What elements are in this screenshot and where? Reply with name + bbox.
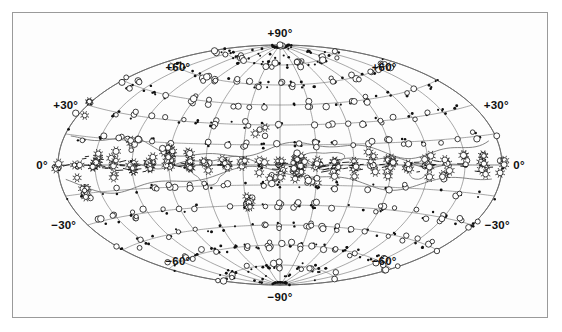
marker-filled-dot: [210, 247, 213, 250]
marker-open-circle: [204, 74, 211, 81]
marker-filled-dot: [279, 281, 282, 284]
marker-filled-dot: [300, 81, 303, 84]
axis-label-dec-plus-30-right: +30°: [484, 99, 509, 111]
marker-filled-dot: [227, 77, 230, 80]
marker-filled-dot: [232, 51, 235, 54]
marker-filled-dot: [257, 247, 259, 249]
marker-filled-dot: [323, 243, 326, 246]
marker-filled-dot: [357, 248, 360, 251]
marker-open-circle: [247, 105, 252, 110]
marker-starburst-circle: [73, 173, 82, 182]
marker-filled-dot: [389, 94, 392, 97]
marker-open-circle: [202, 181, 207, 186]
marker-filled-dot: [404, 138, 407, 141]
marker-open-circle: [279, 240, 285, 246]
marker-dash: [379, 164, 385, 165]
marker-filled-dot: [151, 92, 153, 94]
marker-filled-dot: [259, 55, 261, 57]
marker-open-circle: [136, 79, 142, 85]
marker-open-circle: [425, 110, 430, 115]
marker-open-circle: [225, 142, 231, 148]
marker-open-circle: [440, 174, 446, 180]
marker-filled-dot: [230, 52, 232, 54]
axis-label-dec-minus-60-left: −60°: [165, 255, 190, 267]
marker-filled-dot: [367, 259, 369, 261]
marker-filled-dot: [286, 66, 289, 69]
marker-filled-dot: [265, 275, 267, 277]
marker-open-circle: [279, 81, 284, 86]
marker-filled-dot: [261, 278, 264, 281]
marker-filled-dot: [257, 53, 259, 55]
marker-open-circle: [220, 278, 227, 285]
marker-open-circle: [154, 186, 159, 191]
marker-open-circle: [245, 244, 250, 249]
marker-filled-dot: [306, 51, 308, 53]
marker-filled-dot: [259, 281, 262, 284]
marker-filled-dot: [261, 47, 264, 50]
marker-filled-dot: [493, 198, 496, 201]
marker-filled-dot: [219, 244, 222, 247]
marker-open-circle: [114, 113, 118, 117]
marker-open-circle: [414, 207, 419, 212]
marker-open-circle: [401, 142, 406, 147]
marker-open-circle: [211, 48, 217, 54]
marker-open-circle: [116, 135, 122, 141]
marker-filled-dot: [314, 63, 316, 65]
marker-open-circle: [114, 185, 120, 191]
marker-open-circle: [192, 206, 198, 212]
marker-dash: [321, 171, 329, 172]
marker-open-circle: [439, 216, 445, 222]
marker-open-circle: [242, 119, 248, 125]
marker-filled-dot: [286, 44, 289, 47]
marker-open-circle: [363, 94, 368, 99]
marker-open-circle: [356, 77, 361, 82]
marker-open-circle: [277, 226, 282, 231]
marker-filled-dot: [293, 141, 295, 143]
marker-open-circle: [246, 78, 252, 84]
marker-filled-dot: [441, 110, 443, 112]
marker-open-circle: [263, 223, 268, 228]
marker-open-circle: [439, 140, 444, 145]
marker-open-circle: [82, 188, 86, 192]
marker-filled-dot: [102, 193, 104, 195]
marker-open-circle: [475, 219, 480, 224]
marker-open-circle: [291, 166, 297, 172]
marker-filled-dot: [145, 242, 148, 245]
marker-open-circle: [127, 86, 133, 92]
marker-open-circle: [263, 204, 268, 209]
marker-filled-dot: [131, 84, 133, 86]
marker-filled-dot: [283, 54, 285, 56]
marker-open-circle: [277, 266, 282, 271]
marker-filled-dot: [472, 225, 475, 228]
marker-open-circle: [345, 121, 351, 127]
marker-filled-dot: [382, 58, 384, 60]
marker-open-circle: [415, 236, 420, 241]
marker-filled-dot: [184, 211, 186, 213]
marker-open-circle: [159, 145, 165, 151]
marker-filled-dot: [317, 61, 319, 63]
marker-filled-dot: [290, 44, 293, 47]
axis-label-dec-zero-left: 0°: [36, 159, 48, 171]
marker-filled-dot: [325, 267, 328, 270]
marker-filled-dot: [260, 143, 262, 145]
marker-open-circle: [129, 148, 134, 153]
marker-filled-dot: [341, 76, 344, 79]
marker-open-circle: [241, 58, 247, 64]
marker-filled-dot: [292, 221, 294, 223]
marker-open-circle: [333, 247, 338, 252]
marker-open-circle: [430, 239, 434, 243]
marker-open-circle: [243, 144, 248, 149]
marker-open-circle: [392, 206, 396, 210]
marker-open-circle: [101, 133, 107, 139]
marker-filled-dot: [317, 267, 320, 270]
marker-dash: [99, 166, 105, 167]
marker-open-circle: [274, 140, 280, 146]
marker-open-circle: [332, 140, 337, 145]
marker-open-circle: [227, 204, 232, 209]
marker-open-circle: [330, 79, 335, 84]
figure-frame: +90° +60° +60° +30° +30° 0° 0° −30° −30°…: [12, 12, 548, 318]
marker-filled-dot: [288, 284, 291, 287]
marker-open-circle: [400, 238, 405, 243]
marker-filled-dot: [394, 233, 397, 236]
marker-open-circle: [378, 204, 382, 208]
